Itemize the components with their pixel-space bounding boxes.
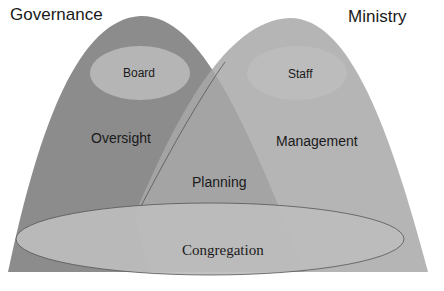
staff-label: Staff <box>288 67 312 81</box>
ministry-title: Ministry <box>348 7 407 27</box>
management-label: Management <box>276 133 358 149</box>
oversight-label: Oversight <box>91 130 151 146</box>
governance-title: Governance <box>10 5 103 25</box>
board-label: Board <box>123 66 155 80</box>
congregation-label: Congregation <box>182 242 264 259</box>
planning-label: Planning <box>192 174 247 190</box>
congregation-oval <box>16 203 404 275</box>
